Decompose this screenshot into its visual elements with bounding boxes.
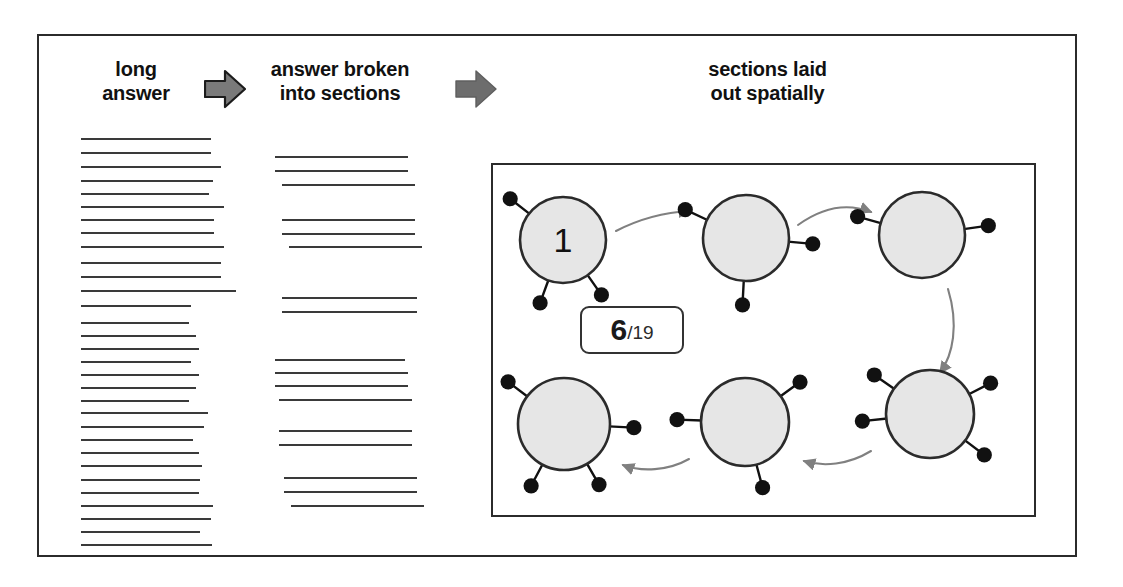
text-line xyxy=(81,361,191,363)
flow-5-to-4 xyxy=(623,459,689,469)
node-satellite-dot xyxy=(981,218,996,233)
text-line xyxy=(81,206,224,208)
section-text-line xyxy=(282,233,415,235)
right-block-arrow-icon xyxy=(204,69,246,109)
flow-3-to-6 xyxy=(940,289,954,373)
section-text-line xyxy=(284,491,417,493)
node-4 xyxy=(500,374,641,493)
spatial-layout-panel: 1 xyxy=(491,163,1036,517)
text-line xyxy=(81,193,209,195)
text-line xyxy=(81,374,199,376)
text-line xyxy=(81,322,189,324)
sections-text-block xyxy=(275,156,440,508)
section-text-line xyxy=(279,444,412,446)
node-5 xyxy=(669,374,807,495)
node-1: 1 xyxy=(503,191,609,310)
counter-total-value: 19 xyxy=(632,322,653,343)
section-text-line xyxy=(291,505,424,507)
counter-total: /19 xyxy=(627,323,653,342)
text-line xyxy=(81,166,221,168)
text-line xyxy=(81,232,214,234)
section-node-circle[interactable] xyxy=(879,192,965,278)
counter-current: 6 xyxy=(610,315,626,345)
text-line xyxy=(81,505,213,507)
text-line xyxy=(81,180,213,182)
section-text-line xyxy=(282,184,415,186)
text-line xyxy=(81,219,214,221)
heading-long-answer: long answer xyxy=(76,57,196,106)
text-line xyxy=(81,335,196,337)
text-line xyxy=(81,544,212,546)
section-node-circle[interactable] xyxy=(518,378,610,470)
node-satellite-dot xyxy=(850,209,865,224)
node-satellite-dot xyxy=(532,295,547,310)
section-text-line xyxy=(282,219,415,221)
text-line xyxy=(81,305,191,307)
text-line xyxy=(81,276,221,278)
right-block-arrow-icon xyxy=(455,69,497,109)
node-satellite-dot xyxy=(594,287,609,302)
text-line xyxy=(81,138,211,140)
section-node-label: 1 xyxy=(554,221,573,259)
flow-1-to-2 xyxy=(616,211,690,231)
text-line xyxy=(81,387,196,389)
node-satellite-dot xyxy=(792,374,807,389)
section-text-line xyxy=(275,170,408,172)
text-line xyxy=(81,452,199,454)
node-satellite-dot xyxy=(669,412,684,427)
node-satellite-dot xyxy=(755,480,770,495)
heading-sections-laid-out-spatially: sections laid out spatially xyxy=(640,57,895,106)
node-satellite-dot xyxy=(503,191,518,206)
node-satellite-dot xyxy=(983,376,998,391)
node-satellite-dot xyxy=(678,202,693,217)
text-line xyxy=(81,246,224,248)
text-line xyxy=(81,412,208,414)
text-line xyxy=(81,492,199,494)
node-satellite-dot xyxy=(500,374,515,389)
section-node-circle[interactable] xyxy=(701,378,789,466)
text-line xyxy=(81,518,211,520)
section-text-line xyxy=(279,430,412,432)
text-line xyxy=(81,290,236,292)
section-text-line xyxy=(275,359,405,361)
text-line xyxy=(81,262,221,264)
node-satellite-dot xyxy=(805,236,820,251)
text-line xyxy=(81,439,193,441)
node-satellite-dot xyxy=(867,367,882,382)
text-line xyxy=(81,479,200,481)
heading-answer-broken: answer broken into sections xyxy=(240,57,440,106)
node-satellite-dot xyxy=(977,447,992,462)
section-text-line xyxy=(282,297,417,299)
text-line xyxy=(81,152,211,154)
text-line xyxy=(81,400,189,402)
section-text-line xyxy=(289,246,422,248)
section-node-circle[interactable] xyxy=(886,370,974,458)
section-text-line xyxy=(275,372,408,374)
section-text-line xyxy=(275,156,408,158)
node-satellite-dot xyxy=(735,297,750,312)
text-line xyxy=(81,348,199,350)
section-node-circle[interactable] xyxy=(703,195,789,281)
text-line xyxy=(81,426,204,428)
section-text-line xyxy=(275,385,408,387)
section-text-line xyxy=(284,477,417,479)
node-satellite-dot xyxy=(626,420,641,435)
figure-canvas: long answer answer broken into sections … xyxy=(0,0,1123,587)
flow-6-to-5 xyxy=(804,451,871,464)
text-line xyxy=(81,465,202,467)
section-text-line xyxy=(282,311,417,313)
node-3 xyxy=(850,192,996,278)
node-cluster-graph: 1 xyxy=(493,165,1034,515)
node-satellite-dot xyxy=(855,414,870,429)
long-answer-text-block xyxy=(81,138,241,550)
node-satellite-dot xyxy=(591,477,606,492)
section-counter-badge: 6 /19 xyxy=(580,306,684,354)
node-6 xyxy=(855,367,998,462)
node-satellite-dot xyxy=(524,478,539,493)
text-line xyxy=(81,531,200,533)
section-text-line xyxy=(279,399,412,401)
node-2 xyxy=(678,195,821,313)
